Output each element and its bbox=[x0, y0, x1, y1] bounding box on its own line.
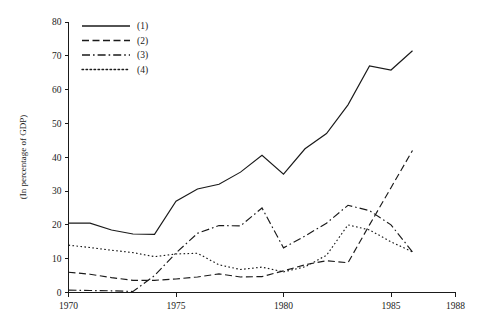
x-tick-label: 1975 bbox=[167, 301, 186, 311]
data-series-group bbox=[69, 51, 413, 292]
series-line-2 bbox=[69, 150, 413, 280]
y-tick-label: 40 bbox=[52, 153, 62, 163]
y-tick-label: 50 bbox=[52, 119, 62, 129]
legend-label-3: (3) bbox=[137, 50, 148, 61]
legend-label-1: (1) bbox=[137, 21, 148, 32]
y-tick-label: 30 bbox=[52, 186, 62, 196]
series-line-1 bbox=[69, 51, 413, 235]
x-tick-label: 1985 bbox=[382, 301, 401, 311]
y-tick-label: 60 bbox=[52, 85, 62, 95]
y-tick-label: 70 bbox=[52, 51, 62, 61]
y-tick-label: 80 bbox=[52, 17, 62, 27]
x-tick-label: 1980 bbox=[274, 301, 293, 311]
chart-figure: (In percentage of GDP) 01020304050607080… bbox=[0, 0, 490, 333]
y-axis-ticks: 01020304050607080 bbox=[52, 17, 69, 298]
y-tick-label: 20 bbox=[52, 220, 62, 230]
series-line-3 bbox=[69, 205, 413, 291]
x-tick-label: 1970 bbox=[59, 301, 78, 311]
y-tick-label: 10 bbox=[52, 254, 62, 264]
x-tick-label: 1988 bbox=[446, 301, 465, 311]
x-axis-ticks: 19701975198019851988 bbox=[59, 293, 465, 311]
chart-legend: (1)(2)(3)(4) bbox=[82, 21, 148, 76]
legend-label-2: (2) bbox=[137, 36, 148, 47]
legend-label-4: (4) bbox=[137, 65, 148, 76]
y-tick-label: 0 bbox=[57, 288, 62, 298]
y-axis-title: (In percentage of GDP) bbox=[18, 115, 28, 200]
line-chart: (In percentage of GDP) 01020304050607080… bbox=[0, 0, 490, 333]
